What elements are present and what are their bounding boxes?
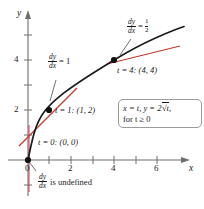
slope-label-t4: dy dx = 1 2 (127, 17, 148, 35)
point-t4 (111, 57, 117, 63)
figure-canvas: y x 0 2 4 6 2 4 dy dx =1 dy dx = 1 2 t =… (0, 0, 204, 209)
y-tick-label-4: 4 (14, 55, 19, 64)
y-axis-label: y (17, 9, 21, 19)
slope-value-denominator: 2 (145, 26, 149, 34)
x-tick-label-4: 4 (111, 164, 116, 173)
fraction-denominator: dx (127, 26, 136, 35)
x-axis (8, 156, 190, 164)
fraction-numerator: dy (38, 173, 47, 181)
fraction-dy-dx: dy dx (48, 53, 57, 70)
undefined-derivative-note: dy dx is undefined (38, 172, 92, 190)
fraction-denominator: dx (48, 61, 57, 70)
fraction-denominator: dx (38, 181, 47, 190)
formula-line-2: for t ≥ 0 (123, 114, 197, 125)
formula-x-equation: x = t (123, 103, 139, 113)
fraction-dy-dx: dy dx (38, 173, 47, 190)
formula-y-equation: y = 2 (143, 103, 161, 113)
fraction-dy-dx: dy dx (127, 18, 136, 35)
y-tick-label-2: 2 (14, 105, 19, 114)
tangent-line-t4 (107, 46, 180, 64)
x-axis-label: x (189, 164, 193, 174)
x-tick-label-6: 6 (154, 164, 159, 173)
formula-line-1: x = t, y = 2√t, (123, 103, 197, 114)
fraction-numerator: dy (127, 18, 136, 26)
slope-value-t1: 1 (66, 57, 70, 66)
undefined-text: is undefined (47, 177, 92, 187)
x-tick-label-0: 0 (25, 164, 30, 173)
point-t1 (46, 107, 52, 113)
formula-callout-box: x = t, y = 2√t, for t ≥ 0 (118, 99, 202, 128)
formula-line1-tail: , (169, 103, 171, 113)
point-label-t1: t = 1: (1, 2) (55, 106, 95, 115)
slope-value-t4: 1 2 (145, 18, 149, 34)
point-label-t0: t = 0: (0, 0) (38, 138, 78, 147)
equals-sign: = (136, 22, 145, 31)
point-label-t4: t = 4: (4, 4) (117, 66, 157, 75)
formula-domain: for t ≥ 0 (123, 114, 151, 124)
slope-label-t1: dy dx =1 (48, 52, 70, 70)
equals-sign: = (57, 57, 66, 66)
radical-icon: √ (162, 102, 167, 113)
fraction-numerator: dy (48, 53, 57, 61)
slope-value-numerator: 1 (145, 18, 149, 25)
